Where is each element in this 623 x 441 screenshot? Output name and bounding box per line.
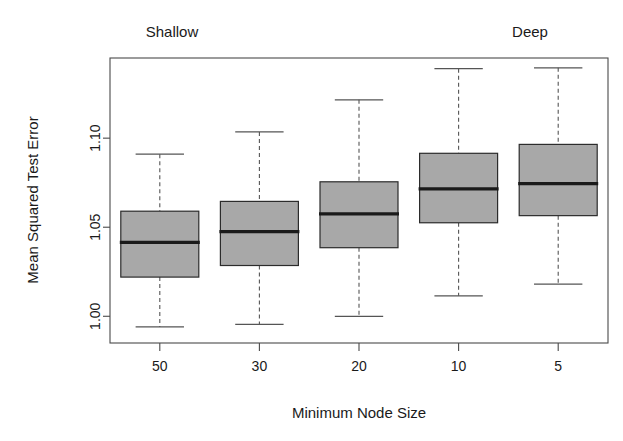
annotation-deep: Deep [512, 23, 548, 40]
box-iqr [220, 201, 298, 265]
x-tick-label: 50 [152, 358, 168, 374]
boxplot-item [219, 132, 299, 324]
box-iqr [519, 144, 597, 215]
x-tick-label: 5 [554, 358, 562, 374]
boxplot-canvas: Shallow Deep 1.001.051.10 503020105 Mini… [0, 0, 623, 441]
x-tick-label: 30 [252, 358, 268, 374]
boxplot-item [319, 100, 399, 316]
y-axis: 1.001.051.10 [87, 124, 110, 330]
y-tick-label: 1.05 [87, 213, 103, 240]
y-tick-label: 1.00 [87, 302, 103, 329]
boxplot-item [120, 154, 200, 327]
box-iqr [121, 211, 199, 277]
boxplot-item [518, 68, 598, 284]
box-series [120, 68, 598, 327]
x-axis: 503020105 [152, 343, 562, 374]
boxplot-item [419, 69, 499, 296]
x-tick-label: 20 [351, 358, 367, 374]
x-axis-title: Minimum Node Size [292, 404, 426, 421]
annotation-shallow: Shallow [146, 23, 199, 40]
y-tick-label: 1.10 [87, 124, 103, 151]
boxplot-figure: Shallow Deep 1.001.051.10 503020105 Mini… [0, 0, 623, 441]
x-tick-label: 10 [451, 358, 467, 374]
y-axis-title: Mean Squared Test Error [24, 116, 41, 283]
